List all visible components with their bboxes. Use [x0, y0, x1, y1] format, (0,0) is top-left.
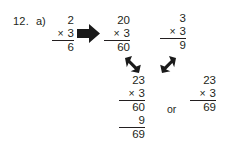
compact-operator-row: × 3	[190, 87, 216, 100]
compact-multiplier: 3	[210, 87, 216, 100]
arrow-down-left-icon	[157, 56, 177, 74]
start-operator-row: × 3	[52, 27, 74, 40]
arrow-right-icon	[77, 24, 101, 43]
expanded-multiplier: 3	[139, 87, 145, 100]
expanded-total: 69	[119, 128, 145, 141]
expanded-partial-ones: 9	[119, 114, 145, 127]
tens-multiplier: 3	[124, 27, 130, 40]
expanded-partial-tens: 60	[119, 101, 145, 114]
expanded-operator: ×	[128, 87, 134, 100]
tens-operator-row: × 3	[104, 27, 130, 40]
ones-operator-row: × 3	[160, 25, 186, 38]
compact-product: 69	[190, 101, 216, 114]
problem-number: 12.	[13, 15, 29, 27]
ones-operator: ×	[169, 25, 175, 38]
multiplication-step-expanded: 23 × 3 60 9 69	[119, 74, 145, 141]
compact-multiplicand: 23	[190, 74, 216, 87]
expanded-operator-row: × 3	[119, 87, 145, 100]
start-product: 6	[52, 41, 74, 54]
start-multiplicand: 2	[52, 14, 74, 27]
start-multiplier: 3	[68, 27, 74, 40]
problem-part-label: a)	[36, 15, 46, 27]
start-operator: ×	[57, 27, 63, 40]
multiplication-step-start: 2 × 3 6	[52, 14, 74, 54]
multiplication-step-ones: 3 × 3 9	[160, 12, 186, 52]
ones-product: 9	[160, 39, 186, 52]
ones-multiplier: 3	[180, 25, 186, 38]
arrow-down-right-icon	[124, 56, 144, 74]
tens-operator: ×	[113, 27, 119, 40]
multiplication-step-tens: 20 × 3 60	[104, 14, 130, 54]
worksheet-page: 12. a) 2 × 3 6 20 × 3 60 3 × 3 9	[0, 0, 228, 152]
or-connector: or	[167, 103, 176, 115]
multiplication-step-compact: 23 × 3 69	[190, 74, 216, 114]
tens-product: 60	[104, 41, 130, 54]
compact-operator: ×	[199, 87, 205, 100]
tens-multiplicand: 20	[104, 14, 130, 27]
expanded-multiplicand: 23	[119, 74, 145, 87]
ones-multiplicand: 3	[160, 12, 186, 25]
